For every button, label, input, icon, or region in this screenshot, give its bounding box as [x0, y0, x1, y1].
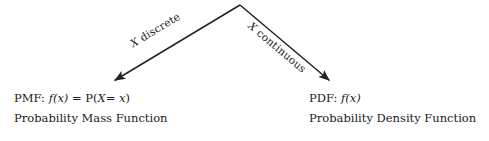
pdf-abbrev: PDF: — [309, 91, 337, 105]
pmf-random-variable: X — [98, 91, 106, 105]
pmf-full-name: Probability Mass Function — [14, 111, 168, 126]
pdf-formula: PDF: f(x) — [309, 91, 476, 106]
pdf-full-name: Probability Density Function — [309, 111, 476, 126]
pmf-inner-equals: = — [106, 91, 119, 105]
leaf-node-pdf: PDF: f(x) Probability Density Function — [309, 91, 476, 126]
pmf-formula: PMF: f(x) = P(X= x) — [14, 91, 168, 106]
arrow-continuous — [240, 5, 330, 81]
pdf-function-argument: (x) — [345, 91, 360, 105]
diagram-canvas: X discrete X continuous PMF: f(x) = P(X=… — [0, 0, 489, 141]
pmf-function-argument: (x) — [53, 91, 68, 105]
leaf-node-pmf: PMF: f(x) = P(X= x) Probability Mass Fun… — [14, 91, 168, 126]
pmf-paren-close: ) — [126, 91, 131, 105]
pmf-abbrev: PMF: — [14, 91, 45, 105]
pmf-equals-sign: = — [68, 91, 85, 105]
pmf-probability-letter: P — [85, 91, 93, 105]
